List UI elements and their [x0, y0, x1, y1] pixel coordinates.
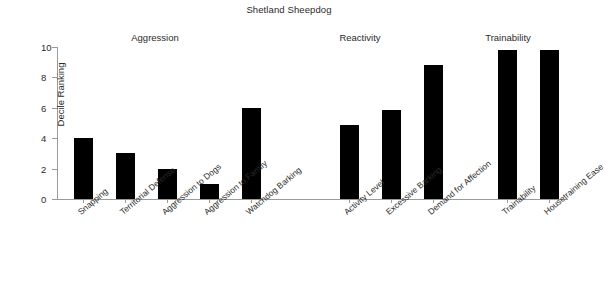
plot-area: Decile Ranking 0246810 SnappingTerritori… [57, 47, 568, 199]
y-tick-8 [52, 77, 57, 78]
group-label-aggression: Aggression [95, 32, 215, 43]
y-tick-label: 8 [41, 72, 45, 83]
y-tick-4 [52, 138, 57, 139]
y-tick-label: 4 [41, 133, 45, 144]
bar [540, 50, 559, 199]
bar [74, 138, 93, 199]
bar [498, 50, 517, 199]
y-tick-10 [52, 47, 57, 48]
y-tick-label: 10 [41, 42, 45, 53]
y-tick-6 [52, 108, 57, 109]
y-tick-label: 0 [41, 194, 45, 205]
y-axis-title: Decile Ranking [55, 50, 66, 140]
bar [340, 125, 359, 199]
group-label-trainability: Trainability [448, 32, 568, 43]
y-tick-label: 2 [41, 163, 45, 174]
group-label-reactivity: Reactivity [300, 32, 420, 43]
bar [116, 153, 135, 199]
y-tick-2 [52, 169, 57, 170]
y-tick-label: 6 [41, 102, 45, 113]
y-tick-0 [52, 199, 57, 200]
chart-title: Shetland Sheepdog [0, 4, 578, 15]
